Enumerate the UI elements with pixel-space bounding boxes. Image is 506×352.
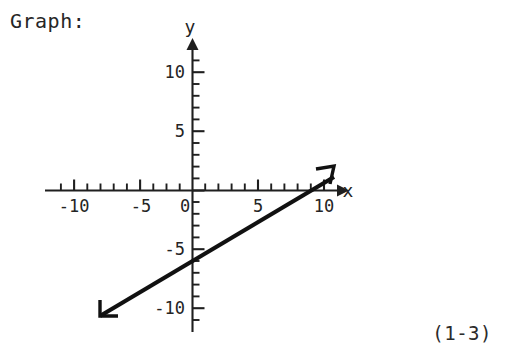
x-tick-label-neg10: -10 — [59, 196, 90, 216]
y-tick-label-5: 5 — [175, 121, 185, 141]
x-axis-major-ticks — [74, 180, 324, 191]
y-axis-label: y — [185, 16, 196, 37]
coordinate-plane-svg: -10 -5 0 5 10 x — [0, 0, 506, 352]
coordinate-plane: -10 -5 0 5 10 x — [0, 0, 506, 352]
plotted-line-series — [100, 166, 334, 316]
y-axis-arrowhead-icon — [187, 38, 199, 50]
y-tick-label-neg10: -10 — [154, 298, 185, 318]
x-tick-label-zero: 0 — [180, 196, 190, 216]
x-axis: -10 -5 0 5 10 x — [45, 180, 354, 217]
x-tick-label-neg5: -5 — [131, 196, 151, 216]
y-axis: 10 5 -5 -10 y — [154, 16, 204, 332]
graph-worksheet-page: Graph: — [0, 0, 506, 352]
y-tick-label-10: 10 — [165, 62, 185, 82]
x-tick-label-5: 5 — [253, 196, 263, 216]
x-axis-label: x — [343, 180, 354, 201]
problem-reference-label: (1-3) — [432, 322, 492, 344]
y-tick-label-neg5: -5 — [165, 239, 185, 259]
x-tick-label-10: 10 — [314, 196, 334, 216]
